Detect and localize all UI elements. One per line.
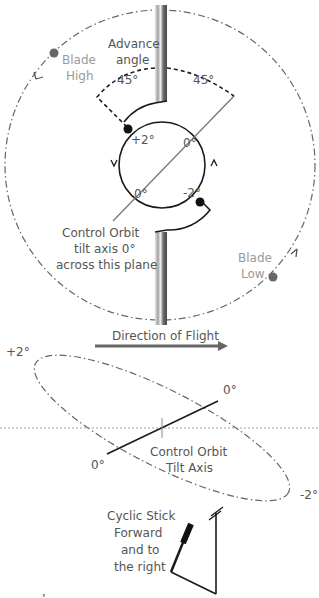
orbit-arrow-left-icon — [111, 160, 117, 166]
swashplate-lower-arc — [155, 202, 210, 232]
orbit-arrow-right-icon — [211, 160, 217, 166]
side-zero-left-label: 0° — [91, 458, 105, 472]
footnote-mark: , — [42, 585, 46, 598]
side-zero-right-label: 0° — [223, 383, 237, 397]
side-minus2-label: -2° — [300, 488, 318, 502]
zero-lower-label: 0° — [134, 187, 148, 201]
angle-right-label: 45° — [193, 73, 214, 87]
zero-upper-label: 0° — [183, 136, 197, 150]
blade-low-label-line1: Blade — [238, 251, 272, 265]
rotor-shaft-lower — [155, 232, 167, 325]
direction-of-flight-label: Direction of Flight — [112, 329, 219, 343]
tilt-axis-label-line3: across this plane — [56, 258, 157, 272]
blade-high-dot — [50, 49, 59, 58]
side-axis-label-line1: Control Orbit — [150, 445, 228, 459]
diagram-canvas: Advance angle 45° 45° Blade High Blade L… — [0, 0, 319, 598]
stick-label-line3: and to — [121, 543, 159, 557]
advance-label-line2: angle — [116, 53, 149, 67]
cyclic-stick-shaft — [171, 540, 184, 572]
swashplate-upper-arc — [124, 101, 167, 122]
rotor-shaft-upper — [155, 5, 167, 102]
rotation-arrow-right-icon — [291, 249, 297, 257]
blade-low-dot — [269, 273, 278, 282]
cyclic-stick-grip — [183, 524, 191, 543]
angle-left-label: 45° — [117, 73, 138, 87]
stick-label-line4: the right — [114, 560, 166, 574]
stick-label-line1: Cyclic Stick — [107, 509, 175, 523]
plus2-label: +2° — [131, 133, 155, 147]
side-plus2-label: +2° — [6, 345, 30, 359]
blade-high-label-line1: Blade — [62, 53, 96, 67]
side-axis-label-line2: Tilt Axis — [165, 461, 213, 475]
tilt-axis-label-line1: Control Orbit — [62, 226, 140, 240]
advance-label-line1: Advance — [108, 37, 160, 51]
blade-high-label-line2: High — [66, 69, 94, 83]
direction-arrow-head-icon — [218, 341, 228, 351]
stick-label-line2: Forward — [114, 526, 162, 540]
minus2-label: -2° — [183, 186, 201, 200]
stick-base-line — [171, 572, 216, 594]
tilt-axis-label-line2: tilt axis 0° — [74, 242, 135, 256]
blade-low-label-line2: Low — [241, 267, 265, 281]
